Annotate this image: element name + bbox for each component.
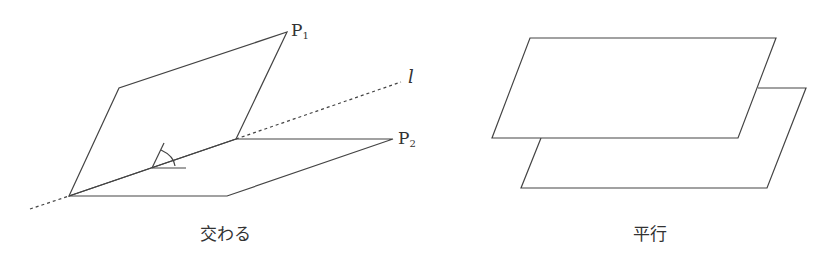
line-l-dashed-upper — [236, 82, 401, 139]
plane-upper — [492, 38, 776, 138]
caption-parallel: 平行 — [633, 220, 667, 245]
parallel-planes-figure — [492, 38, 806, 188]
intersecting-planes-figure — [30, 32, 401, 209]
plane-p1 — [69, 32, 287, 196]
line-l-dashed-lower — [30, 196, 69, 209]
label-p1: P1 — [291, 20, 309, 41]
label-line-l: l — [408, 66, 414, 87]
caption-intersecting: 交わる — [200, 220, 251, 245]
label-p2: P2 — [398, 128, 416, 149]
